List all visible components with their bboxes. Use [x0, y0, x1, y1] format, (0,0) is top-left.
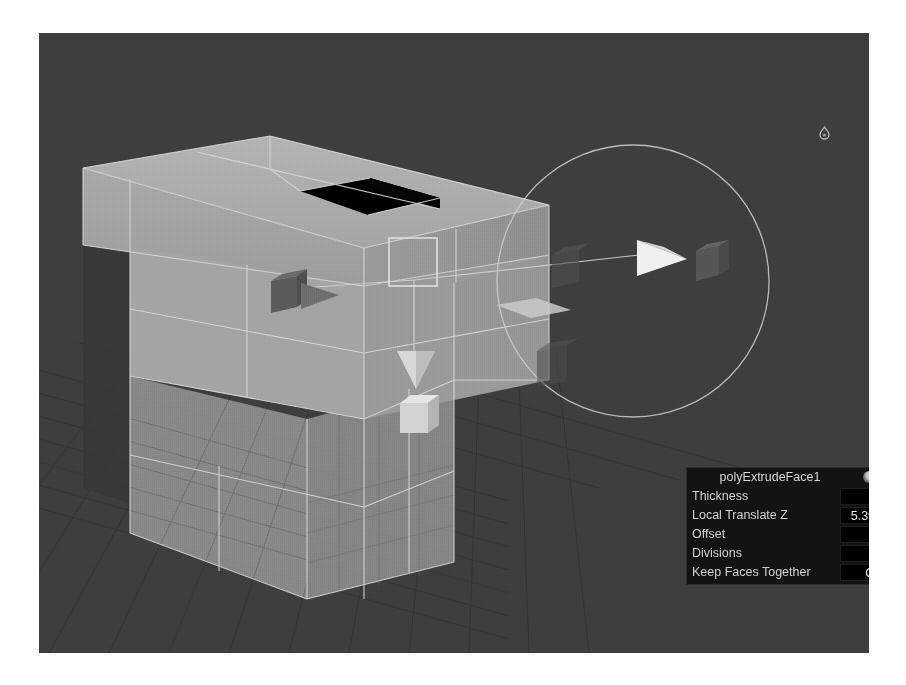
attribute-row-offset[interactable]: Offset 0: [687, 525, 869, 544]
attribute-row-keep-faces-together[interactable]: Keep Faces Together On: [687, 563, 869, 582]
attribute-value-keep-faces-together[interactable]: On: [840, 564, 869, 581]
attribute-value-divisions[interactable]: 1: [840, 545, 869, 562]
attribute-row-divisions[interactable]: Divisions 1: [687, 544, 869, 563]
far-cube-handle[interactable]: [696, 240, 729, 281]
attribute-label-divisions: Divisions: [687, 544, 840, 563]
attribute-value-thickness[interactable]: 0: [840, 488, 869, 505]
sphere-preset-icon[interactable]: [863, 471, 869, 483]
attribute-value-offset[interactable]: 0: [840, 526, 869, 543]
attribute-label-thickness: Thickness: [687, 487, 840, 506]
x-axis-arrow-handle[interactable]: [637, 240, 687, 276]
attribute-label-keep-faces-together: Keep Faces Together: [687, 563, 840, 582]
ghost-cube-handle[interactable]: [552, 243, 589, 288]
swirl-tool-icon: [818, 126, 831, 141]
attribute-panel[interactable]: polyExtrudeFace1 Thickness 0 Local Trans…: [686, 467, 869, 585]
attribute-panel-header: polyExtrudeFace1: [687, 468, 869, 487]
attribute-row-local-translate-z[interactable]: Local Translate Z 5.392: [687, 506, 869, 525]
viewport-3d[interactable]: polyExtrudeFace1 Thickness 0 Local Trans…: [39, 33, 869, 653]
attribute-panel-title: polyExtrudeFace1: [720, 470, 821, 484]
y-axis-cube-handle[interactable]: [400, 395, 439, 433]
attribute-label-offset: Offset: [687, 525, 840, 544]
attribute-panel-header-icons: [863, 471, 869, 483]
attribute-row-thickness[interactable]: Thickness 0: [687, 487, 869, 506]
attribute-value-local-translate-z[interactable]: 5.392: [840, 507, 869, 524]
attribute-label-local-translate-z: Local Translate Z: [687, 506, 840, 525]
